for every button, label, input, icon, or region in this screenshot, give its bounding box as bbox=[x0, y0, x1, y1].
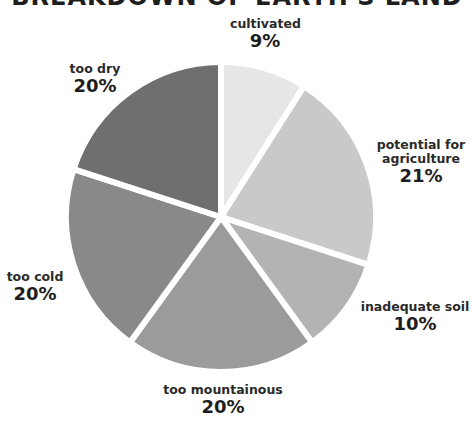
label-percent: 20% bbox=[60, 76, 130, 96]
label-percent: 20% bbox=[148, 397, 298, 417]
label-inadequate-soil: inadequate soil 10% bbox=[356, 300, 474, 334]
label-percent: 20% bbox=[2, 284, 68, 304]
label-percent: 21% bbox=[368, 166, 474, 186]
label-name: too dry bbox=[60, 62, 130, 76]
label-too-cold: too cold 20% bbox=[2, 270, 68, 304]
label-cultivated: cultivated 9% bbox=[230, 17, 300, 51]
label-name-line2: agriculture bbox=[368, 152, 474, 166]
label-percent: 9% bbox=[230, 31, 300, 51]
label-name: too cold bbox=[2, 270, 68, 284]
label-name: too mountainous bbox=[148, 383, 298, 397]
label-too-dry: too dry 20% bbox=[60, 62, 130, 96]
label-name: cultivated bbox=[230, 17, 300, 31]
label-name-line1: potential for bbox=[368, 138, 474, 152]
label-potential-for-agriculture: potential for agriculture 21% bbox=[368, 138, 474, 185]
label-name: inadequate soil bbox=[356, 300, 474, 314]
label-percent: 10% bbox=[356, 314, 474, 334]
label-too-mountainous: too mountainous 20% bbox=[148, 383, 298, 417]
